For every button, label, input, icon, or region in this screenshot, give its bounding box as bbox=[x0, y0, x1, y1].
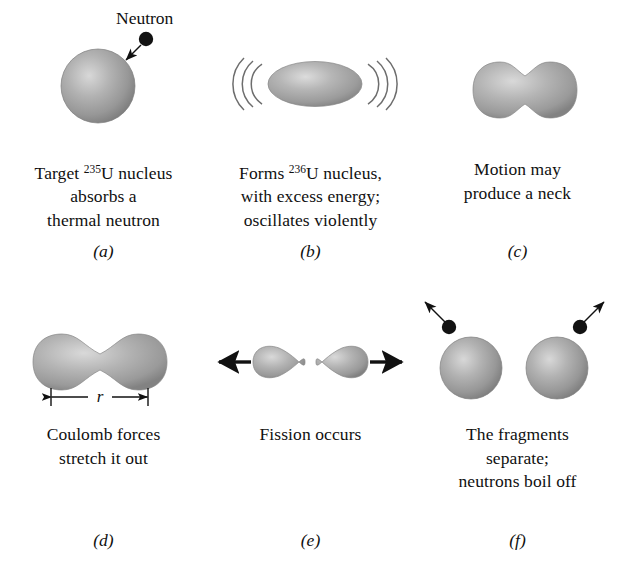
panel-f-caption: The fragments separate; neutrons boil of… bbox=[414, 423, 621, 494]
panel-f: The fragments separate; neutrons boil of… bbox=[414, 280, 621, 430]
neutron-arrow bbox=[126, 45, 141, 60]
panel-d-art: r bbox=[0, 280, 207, 430]
panel-e-art bbox=[207, 280, 414, 430]
caption-line: stretch it out bbox=[0, 447, 207, 471]
panel-b: Forms 236U nucleus, with excess energy; … bbox=[207, 6, 414, 156]
neutron-label: Neutron bbox=[116, 8, 173, 29]
caption-line: Target 235U nucleus bbox=[0, 158, 207, 185]
panel-a: Neutron Target 235U nucleus absorbs a th… bbox=[0, 6, 207, 156]
panel-b-caption: Forms 236U nucleus, with excess energy; … bbox=[207, 158, 414, 232]
panel-a-caption: Target 235U nucleus absorbs a thermal ne… bbox=[0, 158, 207, 232]
panel-a-art: Neutron bbox=[0, 6, 207, 156]
uranium-235-nucleus bbox=[61, 49, 135, 123]
panel-e-tag: (e) bbox=[207, 530, 414, 551]
caption-line: with excess energy; bbox=[207, 185, 414, 209]
panel-c: Motion may produce a neck (c) bbox=[414, 6, 621, 156]
vibration-arcs-left bbox=[233, 58, 262, 110]
panel-b-art bbox=[207, 6, 414, 156]
caption-line: oscillates violently bbox=[207, 209, 414, 233]
caption-line: neutrons boil off bbox=[414, 470, 621, 494]
panel-a-tag: (a) bbox=[0, 241, 207, 262]
panel-e-caption: Fission occurs bbox=[207, 423, 414, 447]
caption-line: Motion may bbox=[414, 158, 621, 182]
uranium-236-nucleus-oscillating bbox=[268, 62, 362, 107]
panel-f-tag: (f) bbox=[414, 530, 621, 551]
caption-line: The fragments bbox=[414, 423, 621, 447]
caption-line: Coulomb forces bbox=[0, 423, 207, 447]
panel-c-tag: (c) bbox=[414, 241, 621, 262]
fragment-right bbox=[316, 346, 368, 378]
mass-number: 235 bbox=[84, 163, 101, 175]
fragment-sphere-right bbox=[526, 337, 588, 399]
vibration-arcs-right bbox=[368, 58, 397, 110]
caption-line: thermal neutron bbox=[0, 209, 207, 233]
panel-c-caption: Motion may produce a neck bbox=[414, 158, 621, 205]
emitted-neutron-arrow-right bbox=[584, 302, 604, 322]
mass-number: 236 bbox=[289, 163, 306, 175]
fission-figure: Neutron Target 235U nucleus absorbs a th… bbox=[0, 0, 622, 562]
emitted-neutron-arrow-left bbox=[425, 302, 445, 322]
panel-f-art bbox=[414, 280, 621, 430]
stretched-nucleus bbox=[33, 334, 167, 390]
caption-line: separate; bbox=[414, 447, 621, 471]
panel-c-art bbox=[414, 6, 621, 156]
panel-d: r Coulomb forces stretch it out (d) bbox=[0, 280, 207, 430]
panel-b-tag: (b) bbox=[207, 241, 414, 262]
panel-d-tag: (d) bbox=[0, 530, 207, 551]
caption-line: absorbs a bbox=[0, 185, 207, 209]
necked-nucleus bbox=[473, 62, 577, 118]
fragment-left bbox=[253, 346, 305, 378]
separation-label: r bbox=[97, 387, 104, 406]
caption-line: Fission occurs bbox=[207, 423, 414, 447]
neutron-particle bbox=[139, 32, 153, 46]
caption-line: Forms 236U nucleus, bbox=[207, 158, 414, 185]
fragment-sphere-left bbox=[440, 337, 502, 399]
caption-line: produce a neck bbox=[414, 182, 621, 206]
panel-d-caption: Coulomb forces stretch it out bbox=[0, 423, 207, 470]
panel-e: Fission occurs (e) bbox=[207, 280, 414, 430]
